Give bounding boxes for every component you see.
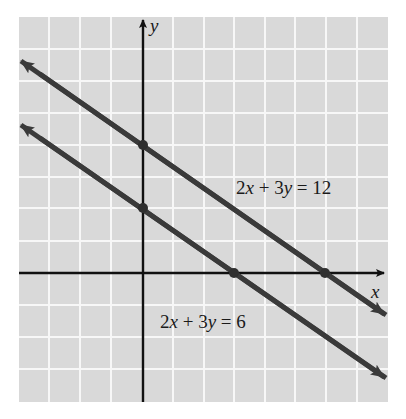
point-6-0: [320, 268, 330, 278]
point-0-4: [138, 140, 148, 150]
equation-label-12: 2x + 3y = 12: [236, 177, 331, 198]
point-3-0: [229, 268, 239, 278]
point-0-2: [138, 203, 148, 213]
x-axis-label: x: [370, 281, 380, 302]
y-axis-label: y: [148, 15, 159, 36]
graph: y x 2x + 3y = 12 2x + 3y = 6: [0, 0, 406, 419]
equation-label-6: 2x + 3y = 6: [160, 311, 246, 332]
